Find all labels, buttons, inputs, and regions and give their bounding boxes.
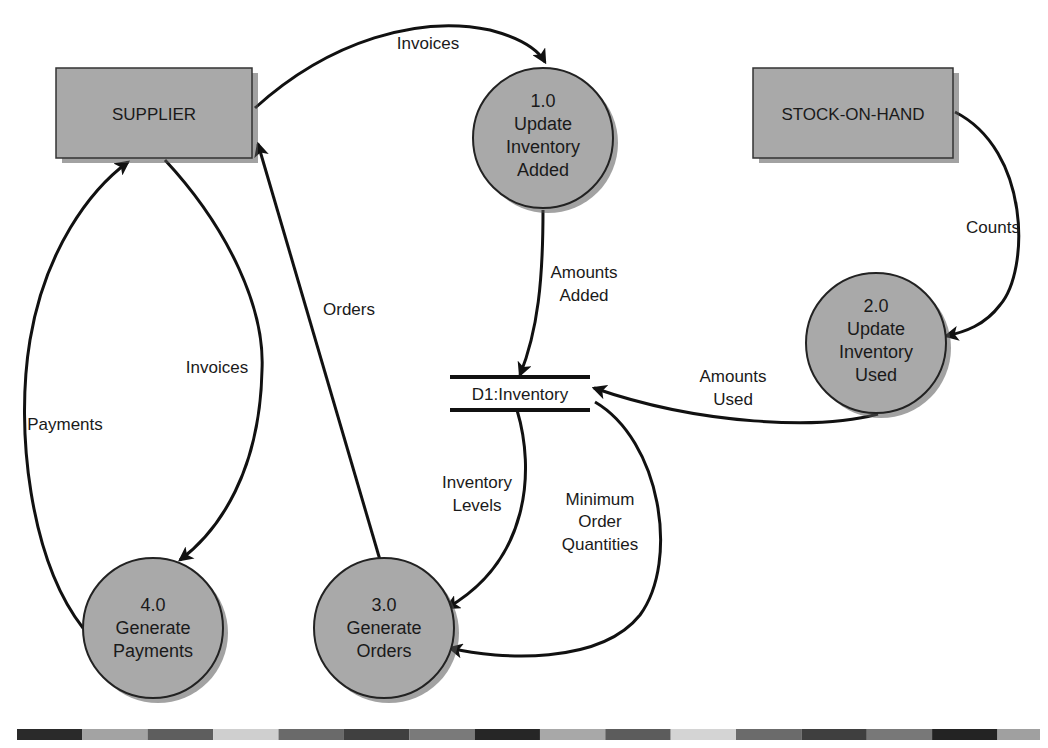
color-bar-segment — [801, 729, 866, 740]
label-invoices-left: Invoices — [186, 358, 248, 377]
process-2-number: 2.0 — [863, 296, 888, 316]
process-2-line1: Update — [847, 319, 905, 339]
color-bar-segment — [736, 729, 801, 740]
color-bar-segment — [17, 729, 82, 740]
color-bar-segment — [475, 729, 540, 740]
label-payments: Payments — [27, 415, 103, 434]
data-store-d1-inventory[interactable]: D1:Inventory — [450, 377, 590, 410]
flow-minimum-order-quantities — [450, 402, 661, 656]
label-orders: Orders — [323, 300, 375, 319]
data-store-label: D1:Inventory — [472, 385, 569, 404]
process-4-line2: Payments — [113, 641, 193, 661]
diagram-canvas: SUPPLIER STOCK-ON-HAND 1.0 Update Invent… — [0, 0, 1048, 748]
flow-orders — [258, 144, 380, 560]
color-bar-segment — [148, 729, 213, 740]
flow-amounts-added — [520, 210, 543, 375]
color-bar-segment — [279, 729, 344, 740]
process-1-line2: Inventory — [506, 137, 580, 157]
process-1-line3: Added — [517, 160, 569, 180]
color-bar-segment — [867, 729, 932, 740]
color-bar-segment — [540, 729, 605, 740]
process-2-update-inventory-used[interactable]: 2.0 Update Inventory Used — [806, 273, 951, 418]
entity-stock-on-hand-label: STOCK-ON-HAND — [781, 105, 924, 124]
entity-supplier-label: SUPPLIER — [112, 105, 196, 124]
process-3-line1: Generate — [346, 618, 421, 638]
color-bar-segment — [998, 729, 1041, 740]
process-2-line3: Used — [855, 365, 897, 385]
label-inventory-levels-2: Levels — [452, 496, 501, 515]
label-amounts-added-1: Amounts — [550, 263, 617, 282]
process-2-line2: Inventory — [839, 342, 913, 362]
color-bar-segment — [344, 729, 409, 740]
label-inventory-levels-1: Inventory — [442, 473, 512, 492]
color-bar-segment — [932, 729, 997, 740]
label-counts: Counts — [966, 218, 1020, 237]
color-bar-segment — [605, 729, 670, 740]
process-3-number: 3.0 — [371, 595, 396, 615]
process-3-generate-orders[interactable]: 3.0 Generate Orders — [314, 558, 459, 703]
process-4-number: 4.0 — [140, 595, 165, 615]
color-bar-segment — [409, 729, 474, 740]
entity-supplier[interactable]: SUPPLIER — [56, 68, 258, 163]
process-1-update-inventory-added[interactable]: 1.0 Update Inventory Added — [473, 68, 618, 213]
process-4-generate-payments[interactable]: 4.0 Generate Payments — [83, 558, 228, 703]
label-min-order-qty-3: Quantities — [562, 535, 639, 554]
process-1-line1: Update — [514, 114, 572, 134]
label-amounts-used-2: Used — [713, 390, 753, 409]
color-bar-segment — [213, 729, 278, 740]
entity-stock-on-hand[interactable]: STOCK-ON-HAND — [753, 68, 959, 163]
label-amounts-added-2: Added — [559, 286, 608, 305]
process-3-line2: Orders — [356, 641, 411, 661]
process-1-number: 1.0 — [530, 91, 555, 111]
decorative-color-bar — [17, 729, 1040, 740]
label-min-order-qty-2: Order — [578, 512, 622, 531]
label-invoices-top: Invoices — [397, 34, 459, 53]
color-bar-segment — [82, 729, 147, 740]
label-min-order-qty-1: Minimum — [566, 490, 635, 509]
color-bar-segment — [671, 729, 736, 740]
data-flow-diagram: SUPPLIER STOCK-ON-HAND 1.0 Update Invent… — [0, 0, 1048, 748]
label-amounts-used-1: Amounts — [699, 367, 766, 386]
flow-payments — [24, 162, 128, 628]
process-4-line1: Generate — [115, 618, 190, 638]
